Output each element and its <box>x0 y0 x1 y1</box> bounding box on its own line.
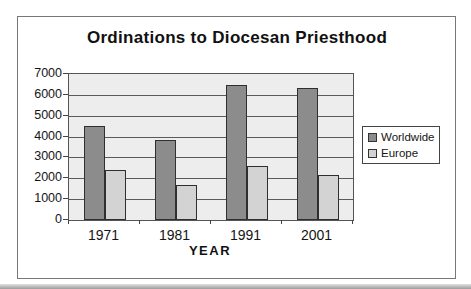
legend-label: Worldwide <box>381 131 434 143</box>
x-tick-label-1991: 1991 <box>210 227 281 243</box>
chart-title: Ordinations to Diocesan Priesthood <box>17 28 457 48</box>
bar-worldwide-1971 <box>84 126 105 220</box>
y-tick-mark <box>63 115 68 116</box>
y-tick-mark <box>63 94 68 95</box>
y-tick-mark <box>63 136 68 137</box>
bar-europe-1991 <box>247 166 268 220</box>
y-tick-label: 1000 <box>22 191 62 205</box>
bar-worldwide-1981 <box>155 140 176 220</box>
bar-europe-1971 <box>105 170 126 220</box>
y-tick-mark <box>63 156 68 157</box>
x-axis-title: YEAR <box>68 243 352 258</box>
x-tick-mark <box>352 220 353 224</box>
y-tick-label: 7000 <box>22 66 62 80</box>
y-tick-label: 2000 <box>22 170 62 184</box>
legend-entry-europe: Europe <box>368 147 434 159</box>
y-tick-label: 0 <box>22 212 62 226</box>
x-tick-label-2001: 2001 <box>281 227 352 243</box>
bar-europe-2001 <box>318 175 339 220</box>
legend: WorldwideEurope <box>362 126 440 164</box>
bar-worldwide-1991 <box>226 85 247 220</box>
page: Ordinations to Diocesan Priesthood 01000… <box>0 0 471 289</box>
legend-label: Europe <box>381 147 418 159</box>
legend-swatch-icon <box>368 149 377 158</box>
plot-area <box>68 73 354 221</box>
y-tick-label: 6000 <box>22 87 62 101</box>
y-tick-mark <box>63 198 68 199</box>
x-tick-mark <box>281 220 282 224</box>
x-tick-mark <box>210 220 211 224</box>
page-edge-shadow <box>0 284 471 289</box>
bar-europe-1981 <box>176 185 197 220</box>
y-tick-label: 5000 <box>22 108 62 122</box>
y-tick-label: 4000 <box>22 129 62 143</box>
bar-worldwide-2001 <box>297 88 318 220</box>
x-tick-label-1971: 1971 <box>68 227 139 243</box>
x-tick-label-1981: 1981 <box>139 227 210 243</box>
y-tick-mark <box>63 73 68 74</box>
legend-swatch-icon <box>368 133 377 142</box>
x-tick-mark <box>139 220 140 224</box>
legend-entry-worldwide: Worldwide <box>368 131 434 143</box>
y-tick-label: 3000 <box>22 149 62 163</box>
x-tick-mark <box>68 220 69 224</box>
y-tick-mark <box>63 177 68 178</box>
